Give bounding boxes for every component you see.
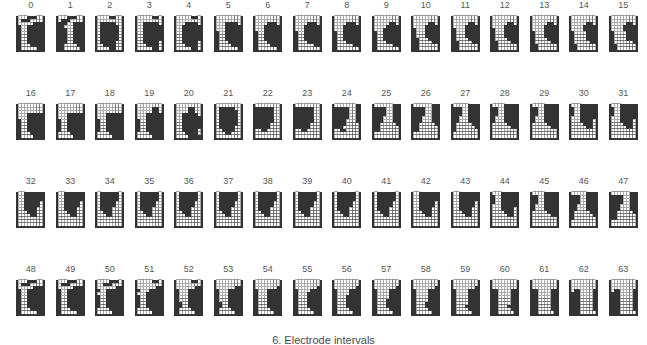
tile-index-label: 2 bbox=[107, 0, 112, 11]
electrode-tile[interactable]: 6 bbox=[248, 0, 288, 52]
electrode-tile[interactable]: 43 bbox=[446, 176, 486, 228]
tile-bitmap bbox=[609, 278, 638, 316]
tile-row: 16171819202122232425262728293031 bbox=[0, 88, 647, 176]
tile-row: 32333435363738394041424344454647 bbox=[0, 176, 647, 264]
electrode-tile[interactable]: 30 bbox=[564, 88, 604, 140]
electrode-tile[interactable]: 4 bbox=[169, 0, 209, 52]
electrode-tile[interactable]: 36 bbox=[169, 176, 209, 228]
tile-index-label: 43 bbox=[460, 176, 470, 187]
tile-index-label: 22 bbox=[263, 88, 273, 99]
electrode-tile[interactable]: 40 bbox=[327, 176, 367, 228]
electrode-tile[interactable]: 46 bbox=[564, 176, 604, 228]
electrode-tile[interactable]: 24 bbox=[327, 88, 367, 140]
electrode-tile[interactable]: 54 bbox=[248, 264, 288, 316]
electrode-tile[interactable]: 26 bbox=[406, 88, 446, 140]
tile-bitmap bbox=[253, 190, 282, 228]
tile-bitmap bbox=[174, 14, 203, 52]
electrode-tile[interactable]: 47 bbox=[604, 176, 644, 228]
electrode-tile[interactable]: 60 bbox=[485, 264, 525, 316]
electrode-tile[interactable]: 22 bbox=[248, 88, 288, 140]
electrode-tile[interactable]: 51 bbox=[130, 264, 170, 316]
tile-bitmap bbox=[56, 278, 85, 316]
electrode-tile[interactable]: 28 bbox=[485, 88, 525, 140]
tile-bitmap bbox=[135, 278, 164, 316]
electrode-tile[interactable]: 35 bbox=[130, 176, 170, 228]
tile-bitmap bbox=[530, 102, 559, 140]
tile-index-label: 21 bbox=[223, 88, 233, 99]
electrode-tile[interactable]: 50 bbox=[90, 264, 130, 316]
electrode-tile[interactable]: 55 bbox=[288, 264, 328, 316]
electrode-tile[interactable]: 29 bbox=[525, 88, 565, 140]
electrode-tile[interactable]: 1 bbox=[51, 0, 91, 52]
electrode-tile[interactable]: 49 bbox=[51, 264, 91, 316]
electrode-tile[interactable]: 32 bbox=[11, 176, 51, 228]
electrode-tile[interactable]: 12 bbox=[485, 0, 525, 52]
tile-index-label: 15 bbox=[618, 0, 628, 11]
tile-bitmap bbox=[214, 102, 243, 140]
tile-index-label: 6 bbox=[265, 0, 270, 11]
tile-index-label: 20 bbox=[184, 88, 194, 99]
tile-index-label: 55 bbox=[302, 264, 312, 275]
electrode-tile[interactable]: 2 bbox=[90, 0, 130, 52]
tile-index-label: 27 bbox=[460, 88, 470, 99]
electrode-tile[interactable]: 10 bbox=[406, 0, 446, 52]
electrode-tile[interactable]: 45 bbox=[525, 176, 565, 228]
electrode-tile[interactable]: 62 bbox=[564, 264, 604, 316]
electrode-tile[interactable]: 39 bbox=[288, 176, 328, 228]
tile-bitmap bbox=[16, 14, 45, 52]
tile-bitmap bbox=[332, 278, 361, 316]
electrode-tile[interactable]: 9 bbox=[367, 0, 407, 52]
electrode-tile[interactable]: 14 bbox=[564, 0, 604, 52]
electrode-tile[interactable]: 44 bbox=[485, 176, 525, 228]
tile-index-label: 28 bbox=[500, 88, 510, 99]
electrode-tile[interactable]: 52 bbox=[169, 264, 209, 316]
electrode-tile[interactable]: 25 bbox=[367, 88, 407, 140]
electrode-tile[interactable]: 33 bbox=[51, 176, 91, 228]
electrode-tile[interactable]: 17 bbox=[51, 88, 91, 140]
tile-index-label: 23 bbox=[302, 88, 312, 99]
tile-bitmap bbox=[372, 278, 401, 316]
electrode-tile[interactable]: 57 bbox=[367, 264, 407, 316]
electrode-tile[interactable]: 23 bbox=[288, 88, 328, 140]
electrode-tile[interactable]: 56 bbox=[327, 264, 367, 316]
electrode-tile[interactable]: 38 bbox=[248, 176, 288, 228]
electrode-tile[interactable]: 13 bbox=[525, 0, 565, 52]
electrode-tile[interactable]: 0 bbox=[11, 0, 51, 52]
electrode-tile[interactable]: 7 bbox=[288, 0, 328, 52]
electrode-tile[interactable]: 58 bbox=[406, 264, 446, 316]
electrode-tile[interactable]: 8 bbox=[327, 0, 367, 52]
tile-index-label: 29 bbox=[539, 88, 549, 99]
electrode-tile[interactable]: 63 bbox=[604, 264, 644, 316]
electrode-tile[interactable]: 18 bbox=[90, 88, 130, 140]
tile-bitmap bbox=[411, 14, 440, 52]
tile-bitmap bbox=[530, 14, 559, 52]
tile-index-label: 11 bbox=[461, 0, 470, 11]
tile-bitmap bbox=[56, 14, 85, 52]
tile-bitmap bbox=[56, 190, 85, 228]
electrode-tile[interactable]: 3 bbox=[130, 0, 170, 52]
electrode-tile[interactable]: 27 bbox=[446, 88, 486, 140]
tile-index-label: 62 bbox=[579, 264, 589, 275]
tile-bitmap bbox=[174, 278, 203, 316]
tile-row: 48495051525354555657585960616263 bbox=[0, 264, 647, 345]
electrode-tile[interactable]: 5 bbox=[209, 0, 249, 52]
electrode-tile[interactable]: 19 bbox=[130, 88, 170, 140]
electrode-tile[interactable]: 11 bbox=[446, 0, 486, 52]
electrode-tile[interactable]: 34 bbox=[90, 176, 130, 228]
tile-bitmap bbox=[411, 190, 440, 228]
electrode-tile[interactable]: 53 bbox=[209, 264, 249, 316]
electrode-tile[interactable]: 61 bbox=[525, 264, 565, 316]
electrode-tile[interactable]: 20 bbox=[169, 88, 209, 140]
tile-index-label: 8 bbox=[344, 0, 349, 11]
electrode-tile[interactable]: 21 bbox=[209, 88, 249, 140]
electrode-tile[interactable]: 48 bbox=[11, 264, 51, 316]
tile-bitmap bbox=[56, 102, 85, 140]
electrode-tile[interactable]: 59 bbox=[446, 264, 486, 316]
electrode-tile[interactable]: 31 bbox=[604, 88, 644, 140]
electrode-tile[interactable]: 16 bbox=[11, 88, 51, 140]
electrode-tile[interactable]: 37 bbox=[209, 176, 249, 228]
electrode-tile[interactable]: 42 bbox=[406, 176, 446, 228]
electrode-tile[interactable]: 41 bbox=[367, 176, 407, 228]
tile-index-label: 3 bbox=[147, 0, 152, 11]
electrode-tile[interactable]: 15 bbox=[604, 0, 644, 52]
